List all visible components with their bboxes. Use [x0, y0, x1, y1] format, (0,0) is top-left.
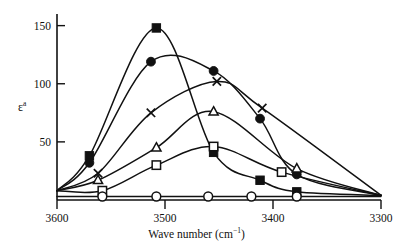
marker-open-circle: [98, 192, 107, 201]
marker-filled-circle: [209, 67, 218, 76]
marker-open-circle: [247, 192, 256, 201]
marker-cross: [258, 104, 266, 112]
y-tick-label: 150: [34, 20, 52, 32]
curve-filled-circle: [57, 55, 381, 195]
curve-open-triangle: [57, 111, 381, 195]
y-tick-label: 50: [40, 136, 52, 148]
curve-filled-square: [57, 28, 381, 195]
marker-open-square: [209, 142, 217, 150]
chart-canvas: 50100150 3600350034003300: [0, 0, 393, 251]
y-axis-label: εa: [18, 99, 26, 115]
x-axis-ticks: [57, 200, 381, 209]
x-tick-label: 3500: [154, 212, 177, 224]
y-axis-tick-labels: 50100150: [34, 20, 52, 148]
marker-open-circle: [204, 192, 213, 201]
marker-open-square: [152, 161, 160, 169]
x-axis-tick-labels: 3600350034003300: [46, 212, 393, 224]
y-axis-label-text: εa: [18, 100, 26, 114]
marker-filled-circle: [256, 114, 265, 123]
x-tick-label: 3600: [46, 212, 69, 224]
y-axis-ticks: [57, 26, 65, 142]
marker-open-square: [277, 168, 285, 176]
marker-open-circle: [292, 192, 301, 201]
y-tick-label: 100: [34, 78, 52, 90]
data-curves: [57, 28, 381, 197]
marker-filled-circle: [147, 57, 156, 66]
curve-cross: [57, 81, 381, 195]
figure-container: 50100150 3600350034003300 εa Wave number…: [0, 0, 393, 251]
marker-filled-circle: [85, 158, 94, 167]
marker-filled-square: [152, 24, 160, 32]
x-tick-label: 3300: [370, 212, 393, 224]
axes-frame: [57, 14, 381, 200]
marker-open-circle: [152, 192, 161, 201]
marker-open-triangle: [152, 143, 161, 151]
x-axis-label-text: Wave number (cm−1): [148, 228, 244, 240]
marker-open-triangle: [292, 164, 301, 172]
x-tick-label: 3400: [262, 212, 285, 224]
marker-cross: [147, 109, 155, 117]
x-axis-label: Wave number (cm−1): [0, 226, 393, 240]
marker-filled-square: [256, 176, 264, 184]
